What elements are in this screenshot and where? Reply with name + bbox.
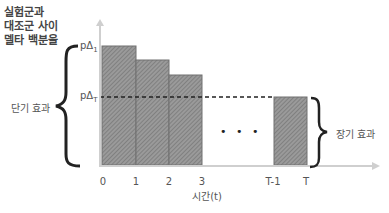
right-brace-icon	[310, 98, 327, 167]
y-axis-label-line-3: 델타 백분율	[4, 34, 58, 48]
bar-2	[136, 60, 169, 165]
x-tick-T-minus-1: T-1	[265, 176, 280, 187]
y-axis-label: 실험군과 대조군 사이 델타 백분율	[4, 6, 58, 48]
ellipsis: • • •	[220, 125, 261, 138]
marker-p-delta-T: pΔT	[80, 90, 97, 104]
marker-p-delta-1: pΔ1	[80, 40, 98, 54]
bar-T	[274, 97, 307, 165]
x-tick-2: 2	[166, 176, 172, 187]
x-tick-0: 0	[100, 176, 106, 187]
long-term-effect-label: 장기 효과	[336, 126, 375, 141]
x-tick-T: T	[303, 176, 309, 187]
marker-p-delta-T-text: pΔ	[80, 90, 93, 101]
x-axis-arrow-icon	[372, 162, 380, 170]
marker-p-delta-1-sub: 1	[93, 46, 97, 54]
y-axis-label-line-1: 실험군과	[4, 6, 58, 20]
x-axis-title: 시간(t)	[192, 188, 222, 203]
bar-3	[169, 75, 202, 165]
x-tick-3: 3	[199, 176, 205, 187]
short-term-effect-label: 단기 효과	[11, 100, 50, 115]
y-axis-label-line-2: 대조군 사이	[4, 20, 58, 34]
y-axis-arrow-icon	[96, 19, 104, 26]
bar-1	[102, 46, 136, 165]
marker-p-delta-T-sub: T	[93, 96, 97, 104]
marker-p-delta-1-text: pΔ	[80, 40, 93, 51]
left-brace-icon	[56, 46, 80, 166]
x-tick-1: 1	[133, 176, 139, 187]
chart-canvas	[0, 0, 389, 213]
